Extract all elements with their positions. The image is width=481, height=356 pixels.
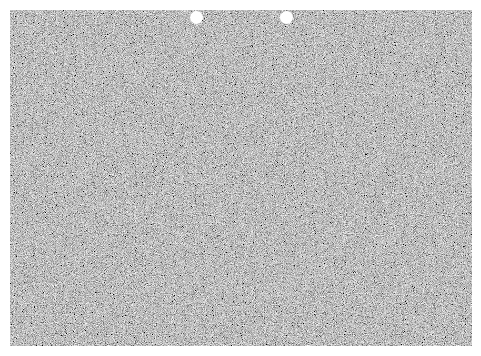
noise-texture-sheet	[10, 10, 472, 346]
noise-texture	[10, 10, 472, 346]
left-hole	[190, 11, 203, 24]
right-hole	[280, 11, 293, 24]
